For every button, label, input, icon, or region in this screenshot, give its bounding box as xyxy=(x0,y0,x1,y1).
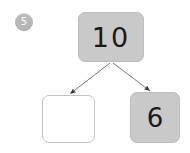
number-bond-worksheet-item: 5 10 6 xyxy=(0,0,190,153)
part-box-right-value: 6 xyxy=(147,105,164,131)
question-number-badge: 5 xyxy=(15,13,33,31)
question-number-label: 5 xyxy=(21,17,27,27)
whole-number-value: 10 xyxy=(92,24,130,51)
whole-number-box[interactable]: 10 xyxy=(78,12,144,62)
part-box-right[interactable]: 6 xyxy=(130,92,180,143)
arrow-to-right-part-line xyxy=(113,63,150,91)
part-box-left-blank[interactable] xyxy=(42,95,95,143)
arrow-to-left-part-line xyxy=(71,63,111,94)
